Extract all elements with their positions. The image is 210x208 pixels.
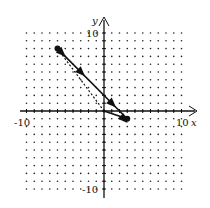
x-min-label: -10	[14, 117, 30, 128]
y-min-label: -10	[82, 184, 98, 195]
y-max-label: 10	[86, 28, 99, 39]
x-axis	[20, 106, 197, 116]
x-axis-label: x	[191, 117, 197, 128]
y-axis-label: y	[91, 15, 98, 26]
y-axis	[99, 17, 109, 198]
x-max-label: 10	[176, 117, 189, 128]
coordinate-plane: -10 10 x 10 -10 y	[0, 0, 210, 208]
